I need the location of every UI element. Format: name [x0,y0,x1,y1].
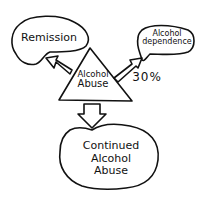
continued-line-1: Continued [68,140,154,153]
dependence-label: Alcohol dependence [140,30,194,47]
center-label: Alcohol Abuse [68,70,118,89]
remission-label: Remission [16,32,82,44]
continued-label: Continued Alcohol Abuse [68,140,154,178]
arrow-to-continued [78,104,106,128]
dependence-line-2: dependence [140,38,194,46]
dependence-rate: 30% [130,71,164,84]
continued-line-3: Abuse [68,165,154,178]
center-line-2: Abuse [68,79,118,90]
